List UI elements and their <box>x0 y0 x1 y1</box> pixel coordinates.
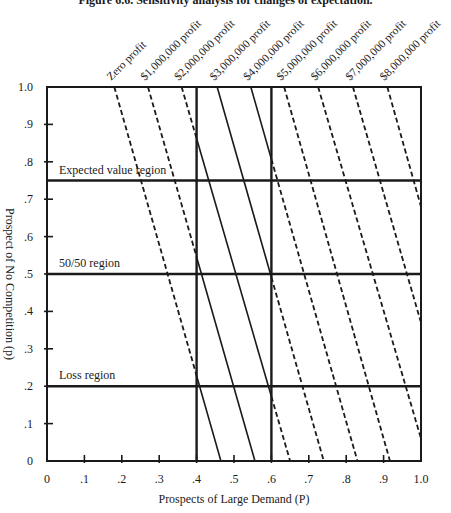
x-tick-label: .1 <box>80 472 89 486</box>
profit-line-segment <box>197 139 272 397</box>
region-lines-group <box>47 181 421 387</box>
y-axis-title: Prospect of No Competition (p) <box>3 208 17 360</box>
y-tick-label: .2 <box>24 379 33 393</box>
region-label: Loss region <box>59 368 115 382</box>
profit-line-label: $8,000,000 profit <box>377 17 443 83</box>
y-tick-label: .7 <box>24 192 33 206</box>
x-tick-label: .8 <box>342 472 351 486</box>
x-tick-label: .6 <box>267 472 276 486</box>
profit-line-label: $7,000,000 profit <box>343 17 409 83</box>
profit-line-segment <box>271 277 323 461</box>
x-tick-label: .2 <box>117 472 126 486</box>
profit-line-segment <box>197 376 221 461</box>
y-tick-label: .5 <box>24 267 33 281</box>
axes-group: 0.1.2.3.4.5.6.7.8.91.00.1.2.3.4.5.6.7.8.… <box>18 80 429 486</box>
profit-line-segment <box>197 257 255 461</box>
profit-line-label: $5,000,000 profit <box>274 17 340 83</box>
y-tick-label: 1.0 <box>18 80 33 94</box>
x-tick-label: .7 <box>304 472 313 486</box>
y-tick-label: .8 <box>24 155 33 169</box>
profit-line-segment <box>182 87 197 139</box>
x-tick-label: 1.0 <box>414 472 429 486</box>
region-label: Expected value region <box>59 163 166 177</box>
profit-line-segment <box>114 87 196 376</box>
chart: 0.1.2.3.4.5.6.7.8.91.00.1.2.3.4.5.6.7.8.… <box>0 0 451 513</box>
profit-line-segment <box>217 87 271 277</box>
x-tick-label: 0 <box>44 472 50 486</box>
profit-line-segment <box>271 159 357 461</box>
profit-line-segment <box>353 87 421 323</box>
x-tick-label: .3 <box>155 472 164 486</box>
x-tick-label: .5 <box>230 472 239 486</box>
y-tick-label: .3 <box>24 342 33 356</box>
profit-line-label: $6,000,000 profit <box>308 17 374 83</box>
x-axis-title: Prospects of Large Demand (P) <box>158 492 309 506</box>
profit-line-segment <box>387 87 421 207</box>
y-tick-label: 0 <box>27 454 33 468</box>
y-tick-label: .1 <box>24 417 33 431</box>
y-tick-label: .6 <box>24 230 33 244</box>
profit-line-segment <box>251 87 272 159</box>
y-tick-label: .9 <box>24 117 33 131</box>
y-tick-label: .4 <box>24 304 33 318</box>
x-tick-label: .4 <box>192 472 201 486</box>
profit-line-label: $2,000,000 profit <box>172 17 238 83</box>
region-label: 50/50 region <box>59 256 120 270</box>
x-tick-label: .9 <box>379 472 388 486</box>
profit-line-segment <box>271 397 290 461</box>
